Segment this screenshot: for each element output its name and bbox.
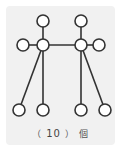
answer-caption: （ 10 ） 個 [0,128,121,140]
graph-node [37,104,49,116]
graph-nodes [13,15,111,116]
caption-open-paren: （ [32,129,42,139]
caption-close-paren: ） [65,129,75,139]
graph-node [75,104,87,116]
graph-edges [19,21,105,110]
graph-edge [81,45,105,110]
graph-node [17,39,29,51]
graph-edge [19,45,43,110]
caption-unit: 個 [79,129,89,139]
graph-node [37,15,49,27]
graph-node [13,104,25,116]
graph-node [99,104,111,116]
graph-node [75,15,87,27]
graph-node [93,39,105,51]
caption-answer-number: 10 [46,128,61,139]
graph-node [37,39,49,51]
graph-node [75,39,87,51]
